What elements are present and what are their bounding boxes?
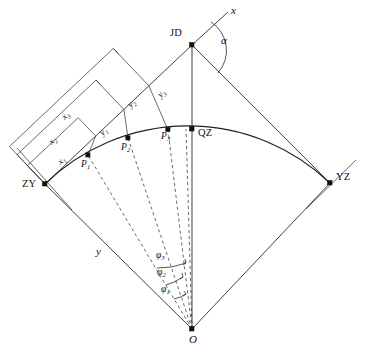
point-label-p1: P1 — [81, 160, 90, 170]
corner-tick-3 — [113, 48, 118, 53]
node-dot-jd — [190, 43, 194, 47]
radial-dashed-p2 — [128, 138, 192, 329]
circular-curve-diagram: x α JD ZY YZ QZ O P1 P2 P3 x1 x2 x3 y1 y… — [0, 0, 366, 354]
phi2-angle-arc — [166, 277, 183, 285]
point-label-qz: QZ — [198, 128, 212, 139]
node-dot-p2 — [126, 136, 130, 140]
radius-line-to-zy — [45, 184, 192, 329]
point-label-p3: P3 — [161, 132, 170, 142]
offset-perp-p3-3 — [113, 48, 149, 86]
offset-perp-p1-1 — [78, 118, 96, 136]
radial-dashed-p3 — [168, 130, 192, 329]
diagram-canvas — [0, 0, 366, 354]
forward-tangent-line — [192, 45, 330, 183]
node-dot-o — [190, 327, 194, 331]
angle-label-phi1: φ1 — [161, 285, 170, 295]
y1-offset-leg — [88, 136, 96, 155]
point-label-o: O — [189, 334, 197, 345]
offset-baseline-3 — [9, 48, 113, 146]
offset-label-y-chord: y — [96, 246, 101, 257]
node-dot-qz — [190, 127, 194, 131]
node-dot-p1 — [86, 153, 90, 157]
radial-dashed-qz — [186, 129, 192, 329]
radius-line-to-yz — [192, 183, 330, 329]
node-dot-yz — [328, 181, 332, 185]
angle-label-phi3: φ3 — [156, 251, 165, 261]
point-label-p2: P2 — [121, 143, 130, 153]
point-label-jd: JD — [170, 28, 182, 39]
point-label-yz: YZ — [336, 172, 350, 183]
node-dot-zy — [43, 182, 47, 186]
phi2-arrowhead — [180, 273, 183, 279]
point-label-zy: ZY — [22, 179, 36, 190]
corner-tick-2 — [96, 80, 101, 85]
alpha-angle-arc — [211, 22, 226, 73]
phi1-arrowhead — [183, 291, 186, 296]
alpha-angle-label: α — [221, 35, 227, 46]
y2-offset-leg — [124, 110, 128, 139]
x-axis-label: x — [231, 5, 236, 16]
angle-label-phi2: φ2 — [157, 268, 166, 278]
